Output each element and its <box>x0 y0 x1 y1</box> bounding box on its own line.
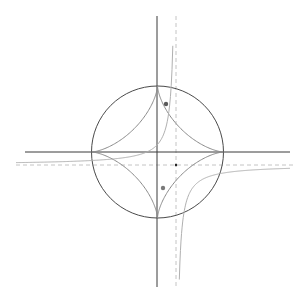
point-b <box>161 186 165 190</box>
diagram-canvas <box>0 0 308 303</box>
point-a <box>164 102 168 106</box>
hyperbola-center-point <box>175 164 177 166</box>
